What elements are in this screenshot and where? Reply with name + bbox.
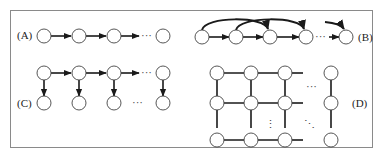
node <box>263 30 277 44</box>
panel-a-ellipsis: ··· <box>141 29 152 41</box>
node <box>278 66 292 80</box>
panel-d-grid-mrf: ··· ⋮ ⋱ (D) <box>210 66 368 147</box>
panel-c-ellipsis-top: ··· <box>141 66 152 78</box>
node <box>244 66 258 80</box>
panel-b-ellipsis: ··· <box>315 30 326 42</box>
hidden-node <box>107 66 121 80</box>
panel-a-chain: (A) ··· <box>17 29 170 43</box>
node <box>210 66 224 80</box>
panel-c-label: (C) <box>17 97 32 110</box>
panel-c-ellipsis-bottom: ··· <box>132 96 143 108</box>
hidden-node <box>37 66 51 80</box>
hidden-node <box>72 66 86 80</box>
node <box>156 29 170 43</box>
panel-d-label: (D) <box>352 97 368 110</box>
observed-node <box>107 96 121 110</box>
node <box>299 30 313 44</box>
graphical-models-diagram: (A) ··· ··· <box>0 0 384 162</box>
observed-node <box>156 96 170 110</box>
node <box>195 30 209 44</box>
node <box>210 133 224 147</box>
node <box>324 133 338 147</box>
panel-b-second-order-chain: ··· (B) <box>195 19 373 44</box>
node <box>324 96 338 110</box>
observed-node <box>72 96 86 110</box>
node <box>72 29 86 43</box>
panel-d-ellipsis-h: ··· <box>306 80 317 92</box>
node <box>324 66 338 80</box>
node <box>37 29 51 43</box>
node <box>278 96 292 110</box>
node <box>210 96 224 110</box>
node <box>339 30 353 44</box>
node <box>107 29 121 43</box>
panel-a-label: (A) <box>17 29 33 42</box>
node <box>278 133 292 147</box>
panel-d-ellipsis-diag: ⋱ <box>304 118 315 130</box>
observed-node <box>37 96 51 110</box>
panel-c-hidden-markov-model: (C) ··· ··· <box>17 66 170 110</box>
hidden-node <box>156 66 170 80</box>
node <box>244 133 258 147</box>
node <box>229 30 243 44</box>
panel-b-label: (B) <box>358 31 373 44</box>
panel-d-ellipsis-v: ⋮ <box>265 118 276 130</box>
node <box>244 96 258 110</box>
